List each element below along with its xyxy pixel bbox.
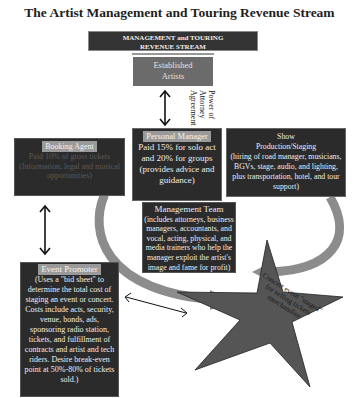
show-production-box: Show Production/Staging (hiring of road …: [226, 128, 346, 197]
double-arrow-booking-promoter-icon: [40, 206, 50, 254]
personal-manager-box: Personal Manager Paid 15% for solo act a…: [132, 128, 222, 201]
management-team-box: Management Team (includes attorneys, bus…: [142, 202, 236, 273]
personal-manager-label: Personal Manager: [143, 131, 211, 142]
management-team-title: Management Team: [143, 205, 235, 215]
personal-manager-body: Paid 15% for solo act and 20% for groups…: [133, 142, 221, 186]
booking-agent-box: Booking Agent Paid 10% of gross tickets …: [14, 138, 125, 196]
show-title: Show: [227, 132, 345, 142]
booking-agent-body: Paid 10% of gross tickets (Information, …: [15, 152, 124, 181]
event-promoter-label: Event Promoter: [38, 264, 101, 275]
arc-arrow-right: [270, 197, 340, 272]
event-promoter-body: (Uses a "bid sheet" to determine the tot…: [23, 275, 116, 385]
power-of-attorney-label: Power of Attorney Agreement: [176, 90, 216, 130]
show-body: (hiring of road manager, musicians, BGVs…: [227, 152, 345, 192]
booking-agent-label: Booking Agent: [42, 141, 97, 152]
double-arrow-vertical-icon: [160, 91, 170, 125]
show-subtitle: Production/Staging: [227, 142, 345, 152]
event-promoter-box: Event Promoter (Uses a "bid sheet" to de…: [20, 262, 119, 397]
management-team-body: (includes attorneys, business managers, …: [143, 215, 235, 273]
